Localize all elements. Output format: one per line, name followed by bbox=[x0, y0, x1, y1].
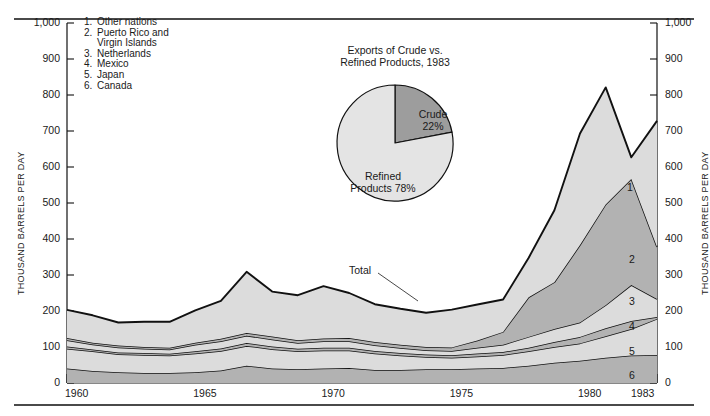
y-tick-label: 1,000 bbox=[16, 16, 60, 28]
y-tick-label: 700 bbox=[16, 124, 60, 136]
band-label-1: 1 bbox=[627, 181, 633, 193]
legend-item-number: 5. bbox=[84, 70, 97, 81]
y-axis-title-right: THOUSAND BARRELS PER DAY bbox=[700, 151, 710, 295]
x-tick-label: 1975 bbox=[450, 387, 473, 399]
y-tick-label: 200 bbox=[665, 304, 709, 316]
legend-item-number: 2. bbox=[84, 28, 97, 39]
legend-item-label: Japan bbox=[97, 70, 124, 81]
x-tick-label: 1960 bbox=[65, 387, 88, 399]
pie-refined-value: Products 78% bbox=[338, 182, 428, 194]
series-legend: 1.Other nations2.Puerto Rico andVirgin I… bbox=[84, 17, 169, 91]
y-tick-label: 900 bbox=[16, 52, 60, 64]
y-tick-label: 1,000 bbox=[665, 16, 709, 28]
y-tick-label: 0 bbox=[16, 376, 60, 388]
y-tick-label: 800 bbox=[665, 88, 709, 100]
pie-slice-label-refined: Refined Products 78% bbox=[338, 170, 428, 194]
pie-slice-label-crude: Crude 22% bbox=[398, 108, 468, 132]
legend-item-6: 6.Canada bbox=[84, 81, 169, 92]
y-axis-title-left: THOUSAND BARRELS PER DAY bbox=[16, 151, 26, 295]
band-label-4: 4 bbox=[629, 320, 635, 332]
band-label-3: 3 bbox=[629, 295, 635, 307]
x-tick-label: 1965 bbox=[193, 387, 216, 399]
x-tick-label: 1983 bbox=[631, 387, 654, 399]
pie-refined-name: Refined bbox=[338, 170, 428, 182]
y-tick-label: 100 bbox=[16, 340, 60, 352]
y-tick-label: 800 bbox=[16, 88, 60, 100]
y-tick-label: 700 bbox=[665, 124, 709, 136]
y-tick-label: 100 bbox=[665, 340, 709, 352]
legend-item-number: 6. bbox=[84, 81, 97, 92]
x-tick-label: 1970 bbox=[322, 387, 345, 399]
band-label-5: 5 bbox=[629, 345, 635, 357]
legend-item-label: Canada bbox=[97, 81, 132, 92]
y-tick-label: 200 bbox=[16, 304, 60, 316]
band-label-2: 2 bbox=[629, 253, 635, 265]
pie-title-line2: Refined Products, 1983 bbox=[310, 56, 480, 68]
x-tick-label: 1980 bbox=[578, 387, 601, 399]
y-tick-label: 900 bbox=[665, 52, 709, 64]
y-tick-label: 0 bbox=[665, 376, 709, 388]
band-label-6: 6 bbox=[629, 369, 635, 381]
total-annotation: Total bbox=[349, 264, 371, 276]
legend-item-1: 1.Other nations bbox=[84, 17, 169, 28]
legend-item-label: Other nations bbox=[97, 17, 157, 28]
pie-crude-value: 22% bbox=[398, 120, 468, 132]
legend-item-number: 1. bbox=[84, 17, 97, 28]
pie-title-line1: Exports of Crude vs. bbox=[310, 44, 480, 56]
pie-crude-name: Crude bbox=[398, 108, 468, 120]
pie-title: Exports of Crude vs. Refined Products, 1… bbox=[310, 44, 480, 68]
legend-item-5: 5.Japan bbox=[84, 70, 169, 81]
